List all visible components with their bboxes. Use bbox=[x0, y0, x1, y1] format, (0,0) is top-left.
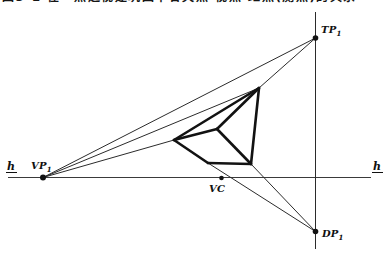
label-dp1: DP1 bbox=[322, 228, 344, 239]
vp1-point bbox=[40, 175, 46, 181]
label-h-right: h bbox=[372, 161, 383, 173]
cube-edge-right bbox=[251, 88, 259, 164]
figure-3-1: 图3-1 在一点透视建筑图中各灭点·视点·距点(测点)的关系 TP1 DP1 V… bbox=[0, 0, 391, 257]
cube-edge-mid-botright bbox=[217, 129, 251, 164]
label-h-left: h bbox=[6, 161, 17, 173]
dp1-point bbox=[313, 229, 319, 235]
sightline-vp1-tp1 bbox=[43, 38, 316, 178]
cube-edge-left-mid bbox=[174, 129, 217, 140]
label-vp1: VP1 bbox=[31, 160, 52, 171]
perspective-diagram bbox=[0, 0, 391, 257]
label-tp1: TP1 bbox=[321, 24, 341, 35]
sightline-vp1-cube-left bbox=[43, 140, 174, 178]
cube-edge-left-bottom bbox=[174, 140, 208, 163]
diagonal-b-dp1 bbox=[208, 163, 316, 232]
cube-edge-top-left bbox=[174, 88, 259, 140]
label-vc: VC bbox=[209, 183, 225, 194]
cube-edge-bottom bbox=[208, 163, 251, 164]
diagonal-br-dp1 bbox=[251, 164, 316, 232]
vc-point bbox=[219, 176, 224, 181]
tp1-point bbox=[313, 35, 319, 41]
